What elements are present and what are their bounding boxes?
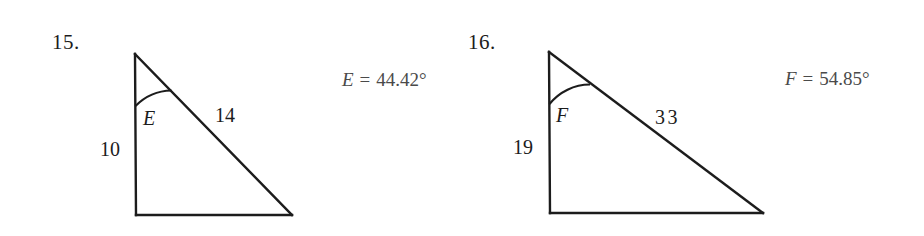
answer-16: F=54.85° — [785, 69, 870, 88]
worksheet-page: 15. 10 14 E E=44.42° 16. 19 33 F F=54.85… — [0, 0, 924, 236]
triangle-16-vertical-leg — [549, 52, 550, 213]
answer-16-value: 54.85° — [819, 68, 869, 89]
triangle-16-angle-label: F — [556, 105, 568, 125]
answer-16-variable: F — [785, 68, 797, 89]
answer-16-equals-sign: = — [797, 68, 820, 89]
triangle-16-angle-arc — [550, 85, 591, 105]
triangle-figure-16 — [0, 0, 924, 236]
triangle-16-hypotenuse — [549, 52, 763, 213]
triangle-16-vertical-side-label: 19 — [513, 137, 533, 157]
triangle-16-hypotenuse-label: 33 — [655, 107, 680, 127]
